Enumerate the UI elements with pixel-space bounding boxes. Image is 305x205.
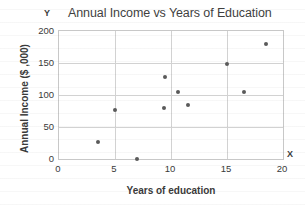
x-tick-label: 20 (267, 163, 297, 174)
x-axis-title: Years of education (58, 185, 284, 196)
x-tick-label: 5 (99, 163, 129, 174)
gridline-vertical (171, 31, 172, 159)
y-tick-label: 200 (28, 25, 54, 36)
chart-title: Annual Income vs Years of Education (68, 6, 272, 20)
data-point (162, 106, 166, 110)
data-point (242, 90, 246, 94)
data-point (176, 90, 180, 94)
data-point (135, 157, 139, 161)
x-tick-label: 0 (43, 163, 73, 174)
data-point (264, 42, 268, 46)
y-tick-label: 100 (28, 89, 54, 100)
x-tick-label: 10 (155, 163, 185, 174)
data-point (163, 75, 167, 79)
x-tick-label: 15 (211, 163, 241, 174)
y-tick-label: 150 (28, 57, 54, 68)
y-tick-label: 0 (28, 153, 54, 164)
data-point (96, 140, 100, 144)
y-axis-marker: Y (44, 8, 50, 18)
plot-area (58, 30, 284, 160)
gridline-vertical (115, 31, 116, 159)
x-axis-tick-labels: 05101520 (58, 163, 284, 177)
data-point (225, 62, 229, 66)
y-axis-tick-labels: 050100150200 (26, 30, 54, 160)
data-point (113, 108, 117, 112)
scatter-chart: Annual Income vs Years of Education Y X … (0, 0, 305, 205)
x-axis-marker: X (287, 149, 293, 159)
gridline-vertical (227, 31, 228, 159)
y-tick-label: 50 (28, 121, 54, 132)
data-point (186, 103, 190, 107)
